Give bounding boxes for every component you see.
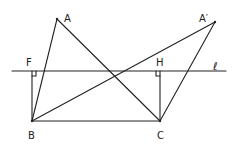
right-angle-mark-h [156, 71, 160, 76]
label-h: H [156, 57, 164, 68]
label-line-l: ℓ [212, 60, 218, 73]
point-b [31, 120, 33, 122]
label-f: F [26, 57, 32, 68]
right-angle-mark-f [32, 71, 36, 76]
point-a [56, 18, 58, 20]
segment-ac [57, 19, 160, 121]
label-c: C [157, 130, 164, 141]
point-a-prime [214, 21, 216, 23]
label-a-prime: A′ [199, 13, 209, 24]
geometry-diagram: A A′ B C F H ℓ [0, 0, 241, 149]
label-a: A [64, 13, 71, 24]
label-b: B [28, 130, 35, 141]
segment-ab [32, 19, 57, 121]
point-c [159, 120, 161, 122]
